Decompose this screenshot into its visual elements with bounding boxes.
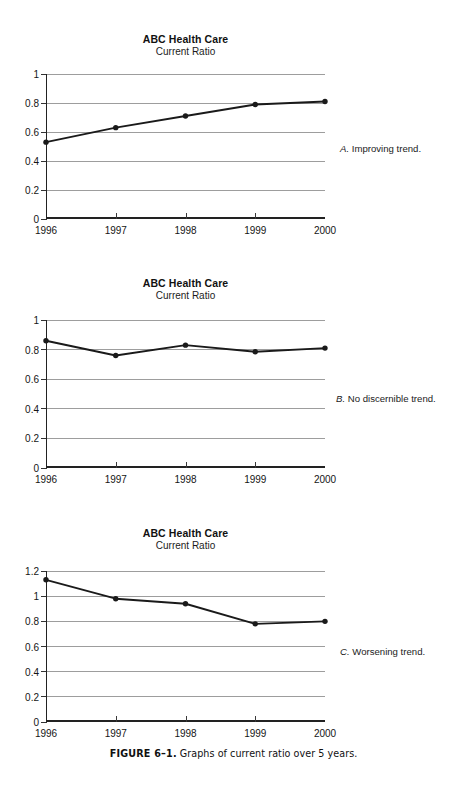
y-axis-tick-label: 0 <box>33 717 39 728</box>
chart-a-side-caption: A. Improving trend. <box>340 143 421 154</box>
y-axis-tick-label: 0.4 <box>25 403 39 414</box>
chart-a-caption-text: Improving trend. <box>352 143 421 154</box>
x-axis-tick-label: 1998 <box>174 225 196 236</box>
data-series <box>46 571 325 722</box>
y-axis-tick-label: 0.4 <box>25 666 39 677</box>
figure-caption: FIGURE 6–1. Graphs of current ratio over… <box>0 748 467 759</box>
figure-number: FIGURE 6–1. <box>110 748 177 759</box>
chart-a-plot-area: 00.20.40.60.8119961997199819992000 <box>46 74 325 219</box>
y-axis-tick-label: 0 <box>33 214 39 225</box>
x-axis-tick-label: 1997 <box>105 225 127 236</box>
chart-c-side-caption: C. Worsening trend. <box>340 646 425 657</box>
chart-panel-c: ABC Health Care Current Ratio 00.20.40.6… <box>0 500 467 796</box>
chart-c-plot-area: 00.20.40.60.811.219961997199819992000 <box>46 571 325 722</box>
chart-b-caption-text: No discernible trend. <box>348 393 436 404</box>
x-axis-tick-label: 2000 <box>314 225 336 236</box>
data-point-marker <box>253 102 258 107</box>
y-axis-tick-label: 0.2 <box>25 185 39 196</box>
chart-c-subtitle: Current Ratio <box>46 540 325 551</box>
x-axis-tick-label: 1999 <box>244 728 266 739</box>
chart-a-caption-letter: A. <box>340 143 349 154</box>
data-point-marker <box>322 99 327 104</box>
data-point-marker <box>113 125 118 130</box>
y-axis-tick-label: 0.6 <box>25 127 39 138</box>
data-point-marker <box>113 353 118 358</box>
figure-page: ABC Health Care Current Ratio 00.20.40.6… <box>0 0 467 796</box>
data-point-marker <box>183 601 188 606</box>
series-line <box>46 102 325 143</box>
data-point-marker <box>43 139 48 144</box>
y-axis-tick-label: 0.8 <box>25 344 39 355</box>
x-axis-tick-label: 2000 <box>314 474 336 485</box>
y-axis-tick-label: 0.6 <box>25 374 39 385</box>
y-axis-tick-label: 0.8 <box>25 98 39 109</box>
y-axis-tick-label: 1 <box>33 69 39 80</box>
chart-b-title: ABC Health Care <box>46 278 325 290</box>
chart-c-caption-text: Worsening trend. <box>352 646 425 657</box>
x-axis-tick-label: 1996 <box>35 225 57 236</box>
x-axis-tick-label: 1999 <box>244 225 266 236</box>
data-point-marker <box>253 621 258 626</box>
data-series <box>46 74 325 219</box>
data-point-marker <box>43 577 48 582</box>
chart-a-plot-inner: 00.20.40.60.8119961997199819992000 <box>46 74 325 219</box>
data-point-marker <box>322 619 327 624</box>
x-axis-tick-label: 1996 <box>35 474 57 485</box>
chart-panel-b: ABC Health Care Current Ratio 00.20.40.6… <box>0 250 467 500</box>
data-point-marker <box>43 338 48 343</box>
chart-b-side-caption: B. No discernible trend. <box>336 393 436 404</box>
y-axis-tick-label: 0.6 <box>25 641 39 652</box>
data-point-marker <box>183 342 188 347</box>
x-axis-tick-label: 1997 <box>105 474 127 485</box>
x-axis-tick-label: 1997 <box>105 728 127 739</box>
chart-a-title: ABC Health Care <box>46 34 325 46</box>
y-axis-tick-label: 1 <box>33 315 39 326</box>
chart-a-subtitle: Current Ratio <box>46 46 325 57</box>
chart-b-plot-area: 00.20.40.60.8119961997199819992000 <box>46 320 325 468</box>
data-point-marker <box>183 113 188 118</box>
x-axis-tick-label: 1998 <box>174 474 196 485</box>
y-axis-tick-label: 1.2 <box>25 566 39 577</box>
chart-panel-a: ABC Health Care Current Ratio 00.20.40.6… <box>0 0 467 250</box>
data-point-marker <box>322 345 327 350</box>
chart-c-title: ABC Health Care <box>46 528 325 540</box>
chart-a-title-group: ABC Health Care Current Ratio <box>46 34 325 57</box>
y-axis-tick-label: 0.2 <box>25 433 39 444</box>
data-point-marker <box>113 596 118 601</box>
x-axis-tick-label: 1998 <box>174 728 196 739</box>
x-axis-tick-label: 1996 <box>35 728 57 739</box>
chart-b-subtitle: Current Ratio <box>46 290 325 301</box>
data-series <box>46 320 325 468</box>
y-axis-tick-label: 0 <box>33 463 39 474</box>
chart-b-plot-inner: 00.20.40.60.8119961997199819992000 <box>46 320 325 468</box>
chart-c-plot-inner: 00.20.40.60.811.219961997199819992000 <box>46 571 325 722</box>
chart-b-caption-letter: B. <box>336 393 345 404</box>
x-axis-tick-label: 1999 <box>244 474 266 485</box>
chart-b-title-group: ABC Health Care Current Ratio <box>46 278 325 301</box>
y-axis-tick-label: 0.4 <box>25 156 39 167</box>
chart-c-title-group: ABC Health Care Current Ratio <box>46 528 325 551</box>
x-axis-tick-label: 2000 <box>314 728 336 739</box>
figure-caption-text: Graphs of current ratio over 5 years. <box>180 748 358 759</box>
y-axis-tick-label: 0.8 <box>25 616 39 627</box>
y-axis-tick-label: 1 <box>33 591 39 602</box>
y-axis-tick-label: 0.2 <box>25 691 39 702</box>
data-point-marker <box>253 349 258 354</box>
chart-c-caption-letter: C. <box>340 646 350 657</box>
